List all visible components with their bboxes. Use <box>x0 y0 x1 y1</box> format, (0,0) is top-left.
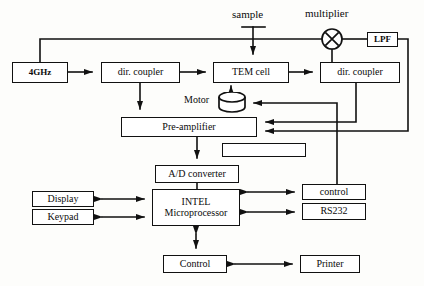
motor-icon <box>217 92 247 113</box>
diagram-wires <box>0 0 424 286</box>
label-motor: Motor <box>184 94 209 105</box>
node-source[interactable]: 4GHz <box>12 62 68 83</box>
node-tem-cell[interactable]: TEM cell <box>213 62 289 83</box>
node-printer[interactable]: Printer <box>300 255 360 273</box>
node-microprocessor[interactable]: INTEL Microprocessor <box>152 189 240 226</box>
node-keypad[interactable]: Keypad <box>32 209 94 225</box>
node-dir-coupler-1[interactable]: dir. coupler <box>101 62 180 83</box>
node-control-bottom[interactable]: Control <box>163 255 227 273</box>
node-preamplifier[interactable]: Pre-amplifier <box>121 117 257 137</box>
node-dir-coupler-2[interactable]: dir. coupler <box>320 62 400 83</box>
node-lpf[interactable]: LPF <box>367 32 398 47</box>
multiplier-icon <box>320 27 344 51</box>
wire-source-to-multiplier <box>40 39 322 62</box>
node-rs232[interactable]: RS232 <box>302 203 366 220</box>
node-control-right[interactable]: control <box>302 184 366 200</box>
label-multiplier: multiplier <box>305 7 348 19</box>
label-sample: sample <box>232 8 263 20</box>
node-ad-converter[interactable]: A/D converter <box>155 165 239 183</box>
node-display[interactable]: Display <box>32 191 94 207</box>
node-blank-box[interactable] <box>222 143 306 157</box>
block-diagram-canvas: 4GHz dir. coupler TEM cell dir. coupler … <box>0 0 424 286</box>
